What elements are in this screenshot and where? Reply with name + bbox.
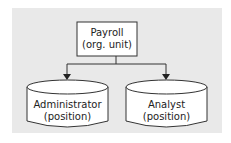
node-title: Analyst (126, 99, 207, 111)
node-title: Payroll (77, 27, 137, 39)
node-subtitle: (position) (27, 111, 108, 123)
position-node-analyst: Analyst (position) (126, 99, 207, 123)
position-node-administrator: Administrator (position) (27, 99, 108, 123)
arrow-down-icon (162, 74, 170, 80)
arrow-down-icon (63, 74, 71, 80)
org-unit-node: Payroll (org. unit) (77, 27, 137, 51)
node-subtitle: (position) (126, 111, 207, 123)
node-subtitle: (org. unit) (77, 39, 137, 51)
node-title: Administrator (27, 99, 108, 111)
